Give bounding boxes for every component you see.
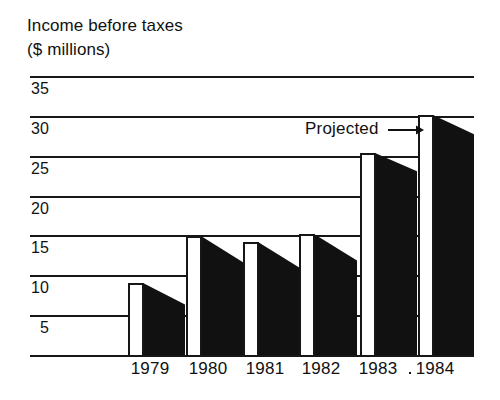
bar-face-1984 (418, 115, 434, 355)
ytick-label-25: 25 (31, 161, 49, 177)
ytick-label-5: 5 (40, 320, 49, 336)
gridline-25 (30, 156, 474, 158)
xtick-label-1982: 1982 (293, 360, 349, 378)
projected-annotation-label: Projected (305, 120, 379, 138)
bar-face-1981 (243, 242, 259, 355)
ytick-label-30: 30 (31, 121, 49, 137)
gridline-30 (30, 116, 474, 118)
ytick-label-35: 35 (31, 81, 49, 97)
xtick-label-1984: 1984 (407, 360, 463, 378)
bar-side-1983 (375, 153, 417, 355)
plot-area: 35 30 25 20 15 10 5 (0, 0, 500, 400)
xtick-label-1979: 1979 (122, 360, 178, 378)
bar-side-1982 (314, 234, 357, 355)
gridline-35 (30, 76, 474, 78)
ytick-label-10: 10 (31, 280, 49, 296)
xtick-label-1981: 1981 (237, 360, 293, 378)
bar-face-1982 (299, 234, 315, 355)
bar-side-1981 (258, 242, 300, 355)
chart-figure: Income before taxes ($ millions) 35 30 2… (0, 0, 500, 400)
bar-face-1980 (186, 236, 202, 355)
x-axis-baseline (30, 355, 474, 357)
arrow-right-icon (388, 125, 424, 135)
ytick-label-20: 20 (31, 201, 49, 217)
bar-side-1979 (143, 283, 185, 355)
xtick-label-1983: 1983 (350, 360, 406, 378)
bar-face-1983 (360, 153, 376, 355)
bar-side-1984 (433, 115, 474, 355)
bar-side-1980 (201, 236, 243, 355)
ytick-label-15: 15 (31, 240, 49, 256)
bar-face-1979 (128, 283, 144, 355)
xtick-label-1980: 1980 (180, 360, 236, 378)
